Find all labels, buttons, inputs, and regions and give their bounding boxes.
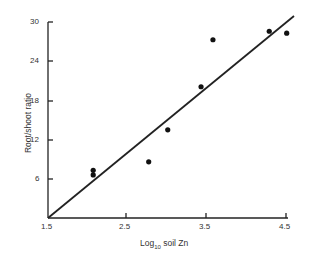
data-point bbox=[284, 31, 289, 36]
y-tick-label: 24 bbox=[30, 56, 39, 65]
data-point bbox=[210, 37, 215, 42]
y-tick-label: 6 bbox=[35, 174, 39, 183]
fit-line bbox=[48, 16, 294, 218]
data-point bbox=[198, 84, 203, 89]
data-point bbox=[91, 168, 96, 173]
data-point bbox=[146, 159, 151, 164]
chart: 30 24 18 12 6 1.5 2.5 3.5 4.5 Root/shoot… bbox=[0, 0, 311, 263]
data-point bbox=[91, 172, 96, 177]
x-axis-label: Log10 soil Zn bbox=[140, 238, 188, 250]
x-tick-label: 4.5 bbox=[279, 222, 290, 231]
data-point bbox=[267, 29, 272, 34]
data-point bbox=[165, 127, 170, 132]
y-tick-label: 30 bbox=[30, 17, 39, 26]
y-axis-label: Root/shoot ratio bbox=[23, 83, 33, 163]
data-points bbox=[91, 29, 290, 178]
x-tick-label: 1.5 bbox=[41, 222, 52, 231]
x-tick-label: 3.5 bbox=[199, 222, 210, 231]
x-tick-label: 2.5 bbox=[119, 222, 130, 231]
